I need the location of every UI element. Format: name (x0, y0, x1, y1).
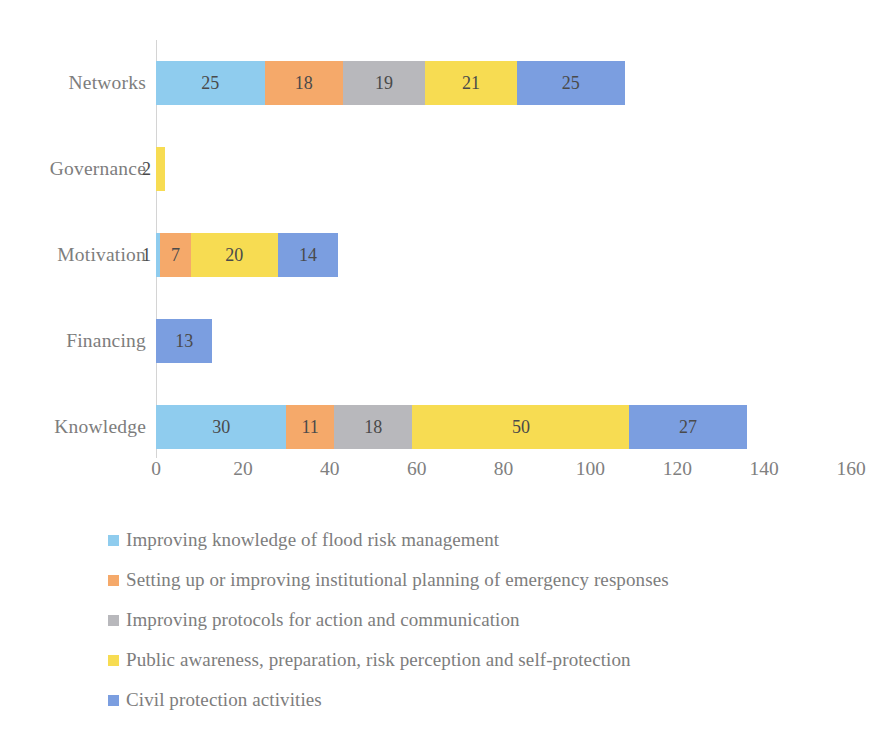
x-axis-tick-label: 0 (151, 458, 161, 480)
x-axis-tick-label: 40 (320, 458, 340, 480)
bar-segment: 27 (629, 405, 746, 449)
bar-segment-value: 19 (375, 74, 393, 92)
bar-segment-value: 20 (225, 246, 243, 264)
legend-swatch-icon (108, 575, 119, 586)
x-axis-tick-label: 20 (233, 458, 253, 480)
legend-swatch-icon (108, 655, 119, 666)
bar-row: Motivation172014 (0, 212, 888, 298)
bar-row: Governance2 (0, 126, 888, 212)
x-axis-tick-label: 120 (663, 458, 692, 480)
x-axis-tick-label: 160 (836, 458, 865, 480)
bar-segment: 19 (343, 61, 426, 105)
legend-swatch-icon (108, 615, 119, 626)
bar-segment: 20 (191, 233, 278, 277)
legend-item[interactable]: Improving knowledge of flood risk manage… (108, 520, 868, 560)
bar-segment-value: 13 (175, 332, 193, 350)
plot-area: Networks2518192125Governance2Motivation1… (0, 28, 888, 458)
bar-rows: Networks2518192125Governance2Motivation1… (0, 28, 888, 458)
bar-segment: 13 (156, 319, 212, 363)
bar-track: 2518192125 (156, 40, 856, 126)
legend-item[interactable]: Civil protection activities (108, 680, 868, 720)
stacked-bar-chart: Networks2518192125Governance2Motivation1… (0, 0, 888, 740)
bar-row: Networks2518192125 (0, 40, 888, 126)
x-axis: 020406080100120140160 (0, 458, 888, 494)
bar-segment: 14 (278, 233, 339, 277)
category-label: Financing (0, 298, 146, 384)
bar-segment-value: 7 (171, 246, 180, 264)
category-label: Governance (0, 126, 146, 212)
bar-segment-value: 18 (295, 74, 313, 92)
bar-segment-value: 25 (201, 74, 219, 92)
bar-segment: 18 (334, 405, 412, 449)
x-axis-tick-label: 100 (576, 458, 605, 480)
legend-swatch-icon (108, 535, 119, 546)
legend-label: Public awareness, preparation, risk perc… (126, 649, 631, 671)
bar-track: 2 (156, 126, 856, 212)
legend-item[interactable]: Public awareness, preparation, risk perc… (108, 640, 868, 680)
x-axis-tick-label: 140 (750, 458, 779, 480)
bar-track: 172014 (156, 212, 856, 298)
legend-item[interactable]: Setting up or improving institutional pl… (108, 560, 868, 600)
bar-track: 13 (156, 298, 856, 384)
category-label: Motivation (0, 212, 146, 298)
bar-segment-value: 18 (364, 418, 382, 436)
bar-segment: 7 (160, 233, 190, 277)
chart-legend: Improving knowledge of flood risk manage… (108, 520, 868, 720)
bar-segment: 2 (156, 147, 165, 191)
bar-segment-value: 25 (562, 74, 580, 92)
bar-segment: 21 (425, 61, 516, 105)
bar-segment: 50 (412, 405, 629, 449)
legend-label: Improving knowledge of flood risk manage… (126, 529, 499, 551)
legend-label: Improving protocols for action and commu… (126, 609, 520, 631)
legend-swatch-icon (108, 695, 119, 706)
legend-label: Setting up or improving institutional pl… (126, 569, 669, 591)
bar-segment: 11 (286, 405, 334, 449)
bar-segment-value: 50 (512, 418, 530, 436)
bar-segment-value: 14 (299, 246, 317, 264)
bar-segment-value: 27 (679, 418, 697, 436)
bar-segment-value: 11 (302, 418, 319, 436)
bar-segment: 25 (156, 61, 265, 105)
bar-row: Financing13 (0, 298, 888, 384)
bar-segment-value: 21 (462, 74, 480, 92)
bar-segment: 30 (156, 405, 286, 449)
x-axis-tick-label: 60 (407, 458, 427, 480)
bar-segment-value: 30 (212, 418, 230, 436)
bar-segment: 18 (265, 61, 343, 105)
x-axis-tick-label: 80 (494, 458, 514, 480)
legend-item[interactable]: Improving protocols for action and commu… (108, 600, 868, 640)
category-label: Networks (0, 40, 146, 126)
bar-segment: 25 (517, 61, 626, 105)
legend-label: Civil protection activities (126, 689, 322, 711)
